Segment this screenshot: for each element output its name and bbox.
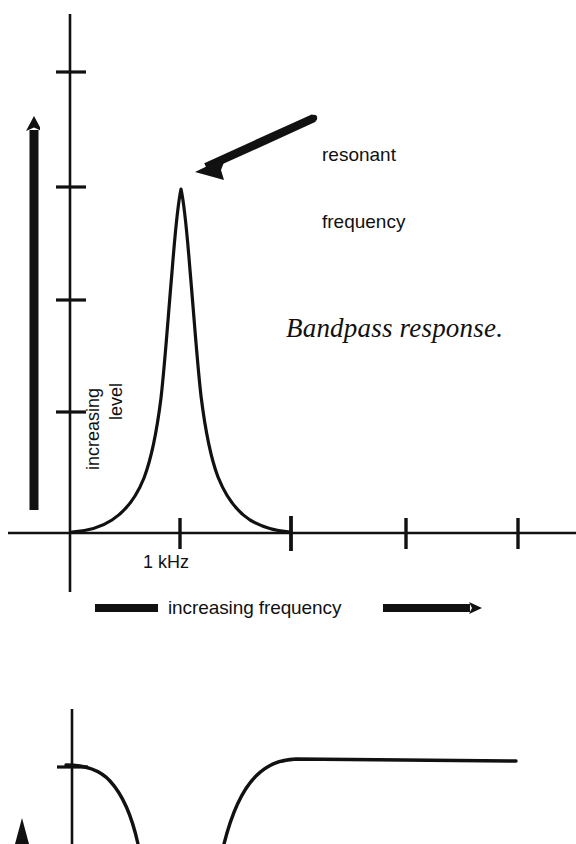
- resonant-frequency-arrow: [195, 115, 317, 180]
- annotation-line-1: resonant: [322, 144, 405, 166]
- resonant-frequency-arrow-tail: [311, 115, 317, 121]
- y-axis-caption-secondary: level: [69, 383, 163, 420]
- x-axis-caption: increasing frequency: [168, 597, 341, 619]
- resonant-frequency-annotation: resonant frequency: [322, 99, 405, 278]
- y-axis-caption-line-2: level: [107, 383, 126, 420]
- annotation-line-2: frequency: [322, 211, 405, 233]
- top-chart-group: [8, 14, 576, 608]
- figure-caption: Bandpass response.: [286, 313, 503, 345]
- bandpass-response-curve: [72, 189, 290, 532]
- figure-root: resonant frequency Bandpass response. 1 …: [0, 0, 576, 844]
- bandstop-response-curve-right: [224, 759, 516, 844]
- x-axis-tick-label-1khz: 1 kHz: [143, 552, 189, 573]
- bottom-increasing-level-arrowhead: [15, 818, 29, 844]
- bandstop-response-curve-left: [66, 765, 138, 844]
- bottom-chart-group: [15, 709, 516, 844]
